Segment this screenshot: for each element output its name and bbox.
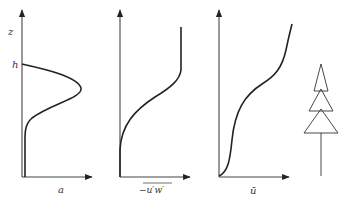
a-axis-label: a xyxy=(58,184,64,195)
conifer-tree-icon xyxy=(304,64,338,176)
leaf-area-curve xyxy=(22,64,81,177)
h-marker-label: h xyxy=(12,59,18,70)
reynolds-stress-curve xyxy=(120,27,181,177)
mean-velocity-curve xyxy=(219,24,292,176)
panel-leaf-area-density xyxy=(22,10,92,177)
z-axis-label: z xyxy=(7,26,14,37)
panel-reynolds-stress xyxy=(120,10,190,177)
panel-mean-velocity xyxy=(219,10,292,177)
stress-axis-label: −u′w′ xyxy=(139,185,164,195)
velocity-axis-label: ū xyxy=(250,185,256,196)
canopy-profiles-diagram: z h a −u′w′ ū xyxy=(0,0,342,203)
